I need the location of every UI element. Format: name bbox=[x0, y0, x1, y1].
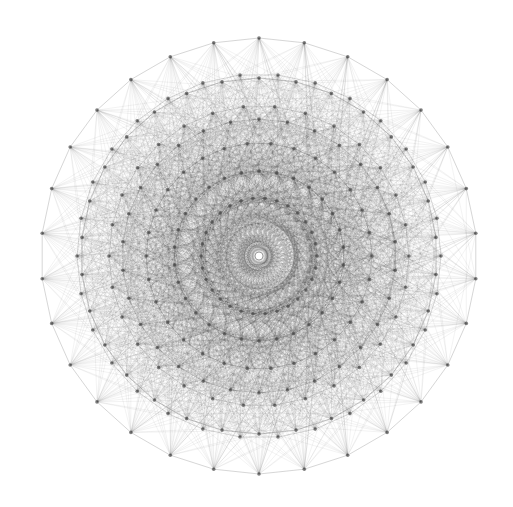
vertex bbox=[139, 323, 143, 327]
vertex bbox=[342, 245, 346, 249]
vertex bbox=[125, 373, 129, 377]
vertex bbox=[223, 332, 227, 336]
vertex bbox=[154, 300, 158, 304]
vertex bbox=[263, 197, 267, 201]
vertex bbox=[177, 365, 181, 369]
vertex bbox=[313, 129, 317, 133]
vertex bbox=[376, 186, 380, 190]
vertex bbox=[276, 435, 280, 439]
vertex bbox=[304, 397, 308, 401]
vertex bbox=[446, 145, 450, 149]
vertex bbox=[446, 363, 450, 367]
vertex bbox=[390, 135, 394, 139]
vertex bbox=[88, 199, 92, 203]
vertex bbox=[147, 231, 151, 235]
vertex bbox=[292, 177, 296, 181]
vertex bbox=[88, 309, 92, 313]
vertex bbox=[153, 398, 157, 402]
vertex bbox=[314, 266, 318, 270]
vertex bbox=[182, 170, 186, 174]
center-hole bbox=[255, 252, 263, 260]
vertex bbox=[313, 379, 317, 383]
vertex bbox=[286, 120, 290, 124]
vertex bbox=[314, 352, 318, 356]
vertex bbox=[276, 73, 280, 77]
vertex bbox=[201, 156, 205, 160]
vertex bbox=[427, 309, 431, 313]
vertex bbox=[294, 80, 298, 84]
vertex bbox=[211, 397, 215, 401]
vertex bbox=[257, 432, 261, 436]
vertex bbox=[239, 199, 243, 203]
vertex bbox=[303, 41, 307, 45]
vertex bbox=[304, 112, 308, 116]
vertex bbox=[362, 110, 366, 114]
vertex bbox=[136, 342, 140, 346]
vertex bbox=[474, 277, 478, 281]
vertex bbox=[107, 254, 111, 258]
vertex bbox=[275, 309, 279, 313]
vertex bbox=[310, 278, 314, 282]
vertex bbox=[304, 220, 308, 224]
vertex bbox=[251, 197, 255, 201]
vertex bbox=[379, 166, 383, 170]
vertex bbox=[338, 281, 342, 285]
vertex bbox=[184, 212, 188, 216]
vertex bbox=[419, 400, 423, 404]
vertex bbox=[275, 337, 279, 341]
vertex bbox=[207, 323, 211, 327]
vertex bbox=[210, 220, 214, 224]
vertex bbox=[79, 292, 83, 296]
vertex bbox=[257, 117, 261, 121]
vertex bbox=[176, 228, 180, 232]
vertex bbox=[393, 240, 397, 244]
vertex bbox=[182, 124, 186, 128]
vertex bbox=[110, 361, 114, 365]
vertex bbox=[211, 112, 215, 116]
vertex bbox=[296, 297, 300, 301]
vertex bbox=[120, 193, 124, 197]
vertex bbox=[333, 338, 337, 342]
vertex bbox=[103, 165, 107, 169]
vertex bbox=[207, 185, 211, 189]
vertex bbox=[202, 129, 206, 133]
vertex bbox=[465, 187, 469, 191]
vertex bbox=[257, 169, 261, 173]
vertex bbox=[257, 36, 261, 40]
vertex bbox=[269, 367, 273, 371]
vertex bbox=[238, 435, 242, 439]
vertex bbox=[330, 417, 334, 421]
vertex bbox=[135, 390, 139, 394]
vertex bbox=[385, 78, 389, 82]
vertex bbox=[95, 108, 99, 112]
vertex bbox=[229, 120, 233, 124]
vertex bbox=[331, 212, 335, 216]
vertex bbox=[411, 165, 415, 169]
vertex bbox=[201, 427, 205, 431]
vertex bbox=[307, 323, 311, 327]
vertex bbox=[257, 339, 261, 343]
vertex bbox=[296, 211, 300, 215]
vertex bbox=[229, 388, 233, 392]
vertex bbox=[154, 208, 158, 212]
vertex bbox=[185, 417, 189, 421]
vertex bbox=[147, 278, 151, 282]
vertex bbox=[127, 212, 131, 216]
vertex bbox=[286, 388, 290, 392]
vertex bbox=[435, 216, 439, 220]
vertex bbox=[173, 263, 177, 267]
vertex bbox=[68, 145, 72, 149]
vertex bbox=[245, 142, 249, 146]
vertex bbox=[407, 254, 411, 258]
vertex bbox=[245, 367, 249, 371]
vertex bbox=[465, 322, 469, 326]
vertex bbox=[155, 163, 159, 167]
vertex bbox=[75, 254, 79, 258]
vertex bbox=[95, 400, 99, 404]
vertex bbox=[338, 228, 342, 232]
vertex bbox=[333, 170, 337, 174]
vertex bbox=[330, 92, 334, 96]
vertex bbox=[275, 171, 279, 175]
vertex bbox=[307, 185, 311, 189]
vertex bbox=[257, 76, 261, 80]
